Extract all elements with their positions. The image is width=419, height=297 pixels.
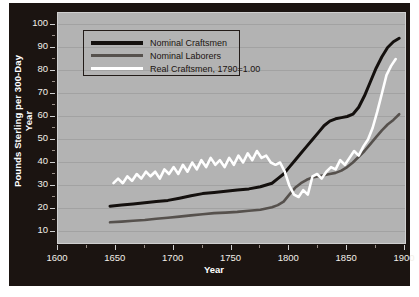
y-tick-label: 60: [14, 110, 48, 120]
x-tick-mark: [57, 245, 58, 250]
y-minor-tick: [52, 150, 55, 151]
x-tick-mark: [231, 245, 232, 250]
y-tick-mark: [50, 208, 55, 209]
y-tick-mark: [50, 139, 55, 140]
y-tick-mark: [50, 231, 55, 232]
y-tick-mark: [50, 116, 55, 117]
x-axis-title: Year: [144, 264, 284, 275]
y-tick-label: 80: [14, 64, 48, 74]
y-tick-label: 20: [14, 202, 48, 212]
x-tick-mark: [115, 245, 116, 250]
chart-legend: Nominal CraftsmenNominal LaborersReal Cr…: [83, 30, 240, 76]
y-minor-tick: [52, 58, 55, 59]
x-minor-tick: [317, 245, 318, 248]
legend-swatch: [91, 41, 143, 45]
x-minor-tick: [375, 245, 376, 248]
y-tick-label: 30: [14, 179, 48, 189]
y-minor-tick: [52, 173, 55, 174]
x-tick-label: 1700: [153, 252, 193, 263]
x-tick-mark: [346, 245, 347, 250]
legend-swatch: [91, 54, 143, 57]
x-minor-tick: [86, 245, 87, 248]
y-tick-label: 100: [14, 18, 48, 28]
y-tick-label: 70: [14, 87, 48, 97]
legend-item: Nominal Craftsmen: [91, 36, 239, 49]
legend-label: Real Craftsmen, 1790=1.00: [150, 64, 260, 74]
chart-figure: Pounds Sterling per 300-Day Year Year 10…: [0, 0, 419, 297]
y-tick-label: 50: [14, 133, 48, 143]
x-tick-label: 1600: [37, 252, 77, 263]
y-tick-mark: [50, 185, 55, 186]
y-tick-mark: [50, 24, 55, 25]
x-tick-label: 1900: [384, 252, 419, 263]
legend-item: Real Craftsmen, 1790=1.00: [91, 62, 239, 75]
x-tick-mark: [404, 245, 405, 250]
legend-swatch: [91, 67, 143, 70]
y-minor-tick: [52, 196, 55, 197]
x-minor-tick: [144, 245, 145, 248]
x-tick-label: 1750: [211, 252, 251, 263]
x-minor-tick: [202, 245, 203, 248]
y-minor-tick: [52, 81, 55, 82]
y-minor-tick: [52, 219, 55, 220]
x-tick-mark: [173, 245, 174, 250]
y-tick-mark: [50, 162, 55, 163]
y-tick-label: 40: [14, 156, 48, 166]
x-tick-label: 1800: [268, 252, 308, 263]
y-tick-label: 10: [14, 225, 48, 235]
y-minor-tick: [52, 104, 55, 105]
y-minor-tick: [52, 127, 55, 128]
x-tick-label: 1850: [326, 252, 366, 263]
y-minor-tick: [52, 35, 55, 36]
legend-label: Nominal Craftsmen: [150, 38, 227, 48]
y-tick-mark: [50, 93, 55, 94]
x-tick-label: 1650: [95, 252, 135, 263]
x-tick-mark: [288, 245, 289, 250]
y-tick-mark: [50, 47, 55, 48]
legend-label: Nominal Laborers: [150, 51, 221, 61]
y-tick-label: 90: [14, 41, 48, 51]
y-tick-mark: [50, 70, 55, 71]
x-minor-tick: [259, 245, 260, 248]
legend-item: Nominal Laborers: [91, 49, 239, 62]
